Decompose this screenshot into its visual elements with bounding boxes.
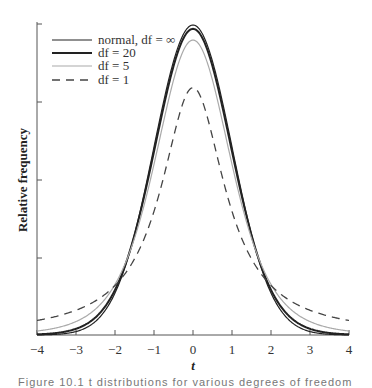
curve-normal	[37, 25, 349, 335]
curve-df5	[37, 40, 349, 331]
legend-label-df1: df = 1	[98, 72, 129, 87]
x-tick-label: 3	[307, 342, 314, 357]
x-tick-label: 1	[229, 342, 236, 357]
x-tick-labels: −4 −3 −2 −1 0 1 2 3 4	[30, 342, 353, 357]
x-tick-label: 4	[346, 342, 353, 357]
curves	[37, 25, 349, 335]
x-tick-label: −4	[30, 342, 44, 357]
legend-label-df5: df = 5	[98, 58, 129, 73]
x-ticks	[37, 330, 349, 335]
x-tick-label: 2	[268, 342, 275, 357]
curve-df20	[37, 29, 349, 334]
figure-caption: Figure 10.1 t distributions for various …	[18, 376, 352, 388]
x-tick-label: −2	[108, 342, 122, 357]
y-ticks	[37, 24, 42, 258]
legend: normal, df = ∞ df = 20 df = 5 df = 1	[52, 32, 175, 87]
curve-df1	[37, 88, 349, 321]
y-axis-title: Relative frequency	[15, 127, 30, 232]
x-tick-label: 0	[190, 342, 197, 357]
x-tick-label: −3	[69, 342, 83, 357]
x-axis-title: t	[191, 358, 195, 373]
x-tick-label: −1	[147, 342, 161, 357]
